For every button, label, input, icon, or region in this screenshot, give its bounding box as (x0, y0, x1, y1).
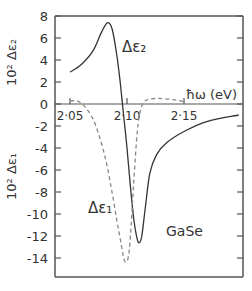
y-tick-label: 0 (40, 97, 48, 112)
annotation-material-gase: GaSe (166, 223, 203, 239)
x-tick-label: 2·05 (57, 109, 84, 123)
y-tick-label: -10 (27, 207, 48, 222)
y-tick-label: -2 (35, 119, 48, 134)
y-tick-label: -14 (27, 251, 48, 266)
x-axis-label: ħω (eV) (186, 87, 237, 102)
y-tick-label: -4 (35, 141, 48, 156)
annotation-delta-eps2: Δε₂ (122, 38, 146, 56)
y-axis-label-lower: 10² Δε₁ (4, 153, 19, 200)
plot-frame (55, 16, 243, 277)
chart: 86420-2-4-6-8-10-12-14 2·052·102·15 ħω (… (0, 0, 252, 291)
y-axis-label-upper: 10² Δε₂ (4, 39, 19, 86)
y-tick-label: 6 (40, 31, 48, 46)
data-series (70, 23, 239, 263)
y-tick-label: 8 (40, 9, 48, 24)
annotation-delta-eps1: Δε₁ (88, 199, 112, 217)
y-tick-label: -6 (35, 163, 48, 178)
y-tick-label: 2 (40, 75, 48, 90)
y-tick-label: 4 (40, 53, 48, 68)
x-tick-label: 2·15 (171, 109, 198, 123)
y-tick-label: -12 (27, 229, 48, 244)
y-tick-label: -8 (35, 185, 48, 200)
x-tick-label: 2·10 (114, 109, 141, 123)
